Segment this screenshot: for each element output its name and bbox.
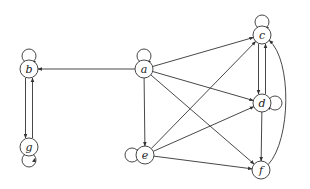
node-c: c <box>253 26 271 44</box>
node-d: d <box>253 94 271 112</box>
node-a: a <box>135 60 153 78</box>
edge-a-e <box>144 78 145 146</box>
edge-d-f <box>261 112 262 161</box>
node-g: g <box>20 138 38 156</box>
edge-e-c <box>151 41 255 148</box>
edges-layer <box>22 15 286 169</box>
directed-graph-diagram: abgecdf <box>0 0 310 189</box>
edge-e-f <box>154 156 252 169</box>
edge-e-d <box>153 107 254 152</box>
node-label-d: d <box>258 97 265 110</box>
node-label-c: c <box>259 29 265 42</box>
node-f: f <box>252 161 270 179</box>
edge-a-c <box>153 37 254 66</box>
node-e: e <box>136 146 154 164</box>
node-label-a: a <box>141 63 148 76</box>
edge-a-f <box>151 75 254 164</box>
node-label-b: b <box>25 63 32 76</box>
node-b: b <box>20 60 38 78</box>
node-label-e: e <box>142 149 149 162</box>
node-label-g: g <box>25 141 32 154</box>
